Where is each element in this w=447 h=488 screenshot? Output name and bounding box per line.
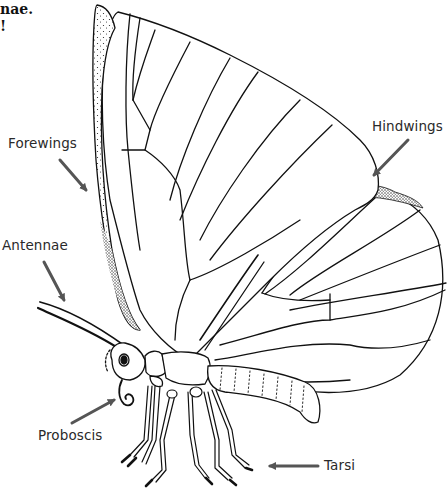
antennae <box>38 302 125 348</box>
label-proboscis: Proboscis <box>38 427 102 443</box>
proboscis <box>119 380 133 405</box>
forewings-arrow <box>60 160 86 190</box>
proboscis-arrow <box>72 400 114 423</box>
legs <box>122 386 252 486</box>
label-antennae: Antennae <box>2 237 68 253</box>
label-forewings: Forewings <box>8 135 77 151</box>
label-hindwings: Hindwings <box>372 118 443 134</box>
label-tarsi: Tarsi <box>324 457 355 473</box>
butterfly-diagram: nae. ! Forewings Hindwings Antennae Prob… <box>0 0 447 488</box>
cropped-heading-fragment-2: ! <box>0 18 6 34</box>
cropped-heading-fragment: nae. <box>0 1 33 17</box>
head <box>106 343 146 380</box>
hindwings-arrow <box>374 140 408 175</box>
antennae-arrow <box>44 262 64 300</box>
thorax <box>145 351 210 386</box>
